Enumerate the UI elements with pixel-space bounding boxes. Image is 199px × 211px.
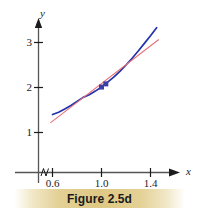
y-axis-label: y (40, 7, 45, 19)
figure-caption-band: Figure 2.5d (14, 189, 185, 208)
marker-layer (99, 81, 108, 89)
figure-caption-text: Figure 2.5d (67, 192, 132, 206)
x-tick-label-0-6: 0.6 (41, 177, 65, 189)
y-tick-label-1: 1 (18, 126, 32, 138)
x-axis-label: x (186, 165, 191, 177)
x-axis-break-icon (41, 169, 49, 177)
x-tick-label-1-4: 1.4 (139, 177, 163, 189)
y-axis-arrowhead (35, 18, 42, 28)
y-tick-label-3: 3 (18, 36, 32, 48)
series-layer (51, 28, 159, 123)
x-tick-label-1-0: 1.0 (90, 177, 114, 189)
figure-container: y x 3 2 1 0.6 1.0 1.4 Figure 2.5d (0, 0, 199, 211)
series-secant-line (51, 40, 159, 123)
x-axis-arrowhead (169, 169, 180, 177)
series-curve (53, 28, 157, 115)
y-tick-label-2: 2 (18, 81, 32, 93)
marker-point-a (99, 85, 104, 90)
marker-point-b (103, 81, 108, 86)
